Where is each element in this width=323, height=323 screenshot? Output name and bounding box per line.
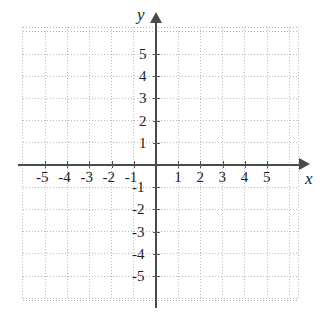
- y-axis-tick: [153, 232, 160, 233]
- y-tick-label: -3: [132, 225, 145, 240]
- grid-line-horizontal: [23, 276, 298, 277]
- x-axis-label: x: [305, 170, 313, 187]
- grid-line-horizontal: [23, 142, 298, 143]
- y-axis-tick: [153, 187, 160, 188]
- y-tick-label: 5: [139, 47, 147, 62]
- grid-line-horizontal: [23, 54, 298, 55]
- coordinate-plane-figure: -5-4-3-2-11234554321-1-2-3-4-5 y x: [0, 0, 323, 323]
- grid-line-horizontal: [23, 76, 298, 77]
- y-tick-label: -4: [132, 247, 145, 262]
- x-tick-label: -3: [80, 170, 93, 185]
- y-axis-tick: [153, 143, 160, 144]
- x-axis-tick: [67, 161, 68, 168]
- y-axis-tick: [153, 54, 160, 55]
- grid-line-horizontal: [23, 31, 298, 32]
- y-axis-tick: [153, 76, 160, 77]
- x-axis-tick: [200, 161, 201, 168]
- y-axis-tick: [153, 209, 160, 210]
- y-tick-label: -5: [132, 269, 145, 284]
- x-tick-label: 2: [196, 170, 204, 185]
- grid-border-horizontal: [23, 300, 298, 301]
- x-tick-label: -4: [58, 170, 71, 185]
- x-tick-label: 5: [263, 170, 271, 185]
- y-tick-label: -2: [132, 202, 145, 217]
- grid-border-horizontal: [23, 27, 298, 28]
- x-tick-label: 4: [241, 170, 249, 185]
- x-tick-label: -2: [103, 170, 116, 185]
- x-axis-tick: [89, 161, 90, 168]
- grid-line-horizontal: [23, 98, 298, 99]
- y-axis-label: y: [137, 6, 145, 23]
- grid-line-horizontal: [23, 231, 298, 232]
- x-tick-label: 1: [174, 170, 182, 185]
- grid-line-horizontal: [23, 209, 298, 210]
- x-axis-tick: [245, 161, 246, 168]
- y-axis-arrow-icon: [150, 12, 162, 23]
- x-axis-line: [18, 164, 304, 166]
- y-axis-line: [155, 18, 157, 308]
- y-tick-label: 3: [139, 91, 147, 106]
- grid-line-horizontal: [23, 187, 298, 188]
- y-axis-tick: [153, 121, 160, 122]
- y-tick-label: 4: [139, 69, 147, 84]
- grid-line-horizontal: [23, 120, 298, 121]
- x-tick-label: 3: [219, 170, 227, 185]
- y-axis-tick: [153, 276, 160, 277]
- grid-line-horizontal: [23, 298, 298, 299]
- x-axis-tick: [112, 161, 113, 168]
- x-tick-label: -5: [36, 170, 49, 185]
- x-axis-tick: [223, 161, 224, 168]
- y-tick-label: 1: [139, 136, 147, 151]
- y-tick-label: -1: [132, 180, 145, 195]
- x-axis-tick: [45, 161, 46, 168]
- x-axis-tick: [267, 161, 268, 168]
- y-tick-label: 2: [139, 114, 147, 129]
- x-axis-tick: [178, 161, 179, 168]
- y-axis-tick: [153, 98, 160, 99]
- x-axis-tick: [134, 161, 135, 168]
- y-axis-tick: [153, 254, 160, 255]
- grid-line-horizontal: [23, 253, 298, 254]
